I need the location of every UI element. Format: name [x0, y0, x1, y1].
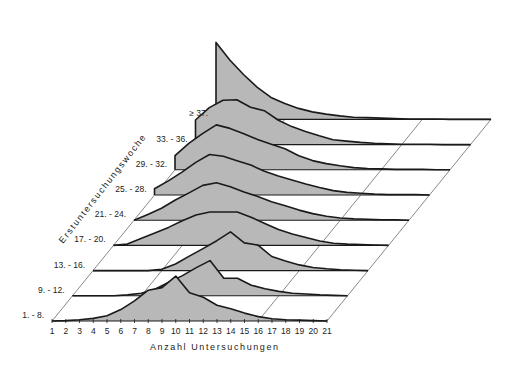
row-label: 25. - 28.: [115, 184, 146, 194]
row-label: 33. - 36.: [156, 134, 187, 144]
x-tick-label: 1: [50, 326, 55, 336]
ridge-area: [93, 232, 368, 271]
x-axis-title: Anzahl Untersuchungen: [150, 342, 280, 352]
row-label: ≥ 37.: [189, 108, 208, 118]
x-tick-label: 6: [118, 326, 123, 336]
x-tick-label: 18: [281, 326, 291, 336]
x-tick-label: 21: [322, 326, 332, 336]
x-tick-label: 19: [295, 326, 305, 336]
x-tick-label: 12: [199, 326, 209, 336]
x-tick-label: 20: [309, 326, 319, 336]
x-tick-label: 10: [171, 326, 181, 336]
x-tick-label: 8: [146, 326, 151, 336]
x-tick-label: 13: [212, 326, 222, 336]
x-tick-label: 5: [105, 326, 110, 336]
ridge-area: [216, 42, 491, 119]
ridgeline-chart: 123456789101112131415161718192021 1. - 8…: [0, 0, 521, 369]
ridgeline-rows: [52, 42, 491, 321]
row-label: 21. - 24.: [95, 209, 126, 219]
ridge-row: [216, 42, 491, 119]
x-tick-label: 17: [267, 326, 277, 336]
x-tick-label: 9: [160, 326, 165, 336]
ridge-row: [93, 232, 368, 271]
x-tick-label: 3: [77, 326, 82, 336]
row-label: 9. - 12.: [38, 285, 64, 295]
x-tick-label: 14: [226, 326, 236, 336]
x-tick-label: 7: [132, 326, 137, 336]
x-tick-label: 2: [63, 326, 68, 336]
x-tick-label: 15: [240, 326, 250, 336]
row-label: 29. - 32.: [136, 159, 167, 169]
row-label: 1. - 8.: [22, 310, 44, 320]
row-label: 17. - 20.: [74, 234, 105, 244]
row-label: 13. - 16.: [54, 260, 85, 270]
x-tick-label: 11: [185, 326, 194, 336]
x-tick-label: 16: [254, 326, 264, 336]
x-tick-label: 4: [91, 326, 96, 336]
